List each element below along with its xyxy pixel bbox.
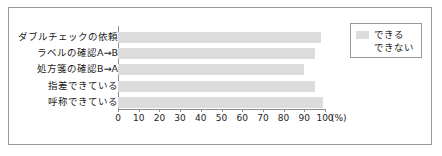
bar-segment-dekiru: [118, 48, 315, 59]
bar-row: [118, 48, 325, 59]
category-label: 呼称できている: [0, 96, 118, 107]
x-axis-tick: [159, 109, 160, 112]
legend-item-dekiru: できる: [356, 28, 421, 41]
bar-segment-dekiru: [118, 64, 304, 75]
legend-swatch-dekinai: [356, 44, 369, 52]
x-axis-tick: [325, 109, 326, 112]
category-label: 指差できている: [0, 80, 118, 91]
legend-label-dekinai: できない: [374, 42, 414, 53]
x-axis-tick: [222, 109, 223, 112]
x-axis-tick: [180, 109, 181, 112]
bar-row: [118, 81, 325, 92]
legend-swatch-dekiru: [356, 31, 369, 39]
bar-row: [118, 64, 325, 75]
category-label: ダブルチェックの依頼: [0, 31, 118, 42]
bar-row: [118, 97, 325, 108]
x-axis-tick: [284, 109, 285, 112]
x-axis-tick: [201, 109, 202, 112]
x-axis-tick: [263, 109, 264, 112]
bar-segment-dekiru: [118, 32, 321, 43]
x-axis-tick: [118, 109, 119, 112]
category-label: 処方箋の確認B→A: [0, 63, 118, 74]
x-axis-unit-label: (%): [331, 113, 347, 124]
chart-panel: ダブルチェックの依頼ラベルの確認A→B処方箋の確認B→A指差できている呼称できて…: [8, 7, 432, 145]
legend-label-dekiru: できる: [374, 29, 404, 40]
bar-chart-plot: ダブルチェックの依頼ラベルの確認A→B処方箋の確認B→A指差できている呼称できて…: [9, 8, 433, 146]
bar-segment-dekiru: [118, 97, 323, 108]
bar-segment-dekiru: [118, 81, 315, 92]
x-axis-tick: [304, 109, 305, 112]
chart-legend: できる できない: [350, 23, 422, 58]
x-axis-tick: [139, 109, 140, 112]
bar-row: [118, 32, 325, 43]
x-axis-tick: [242, 109, 243, 112]
legend-item-dekinai: できない: [356, 41, 421, 54]
category-label: ラベルの確認A→B: [0, 47, 118, 58]
